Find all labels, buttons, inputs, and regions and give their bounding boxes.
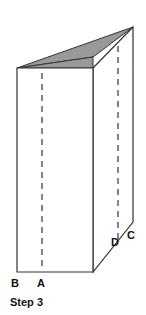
figure-container: B A D C Step 3 <box>0 0 146 315</box>
step-caption: Step 3 <box>10 296 43 308</box>
vertex-label-b: B <box>11 277 19 289</box>
vertex-label-d: D <box>111 236 119 248</box>
vertex-label-c: C <box>127 229 135 241</box>
folded-paper-diagram: B A D C Step 3 <box>0 0 146 315</box>
front-panel-shape <box>17 68 93 272</box>
vertex-label-a: A <box>37 277 45 289</box>
